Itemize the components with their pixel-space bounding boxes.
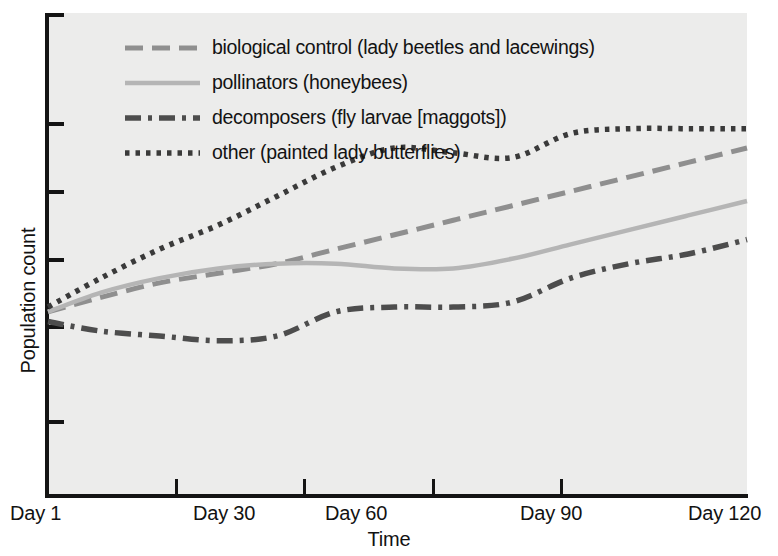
legend-item: pollinators (honeybees) xyxy=(125,65,685,100)
legend: biological control (lady beetles and lac… xyxy=(125,30,685,170)
legend-line-solid-icon xyxy=(125,74,200,92)
legend-item: decomposers (fly larvae [maggots]) xyxy=(125,100,685,135)
legend-line-dotted-icon xyxy=(125,144,200,162)
legend-item: other (painted lady butterflies) xyxy=(125,135,685,170)
legend-item-label: decomposers (fly larvae [maggots]) xyxy=(212,106,506,129)
series-line-pollinators xyxy=(48,201,747,312)
y-axis-title: Population count xyxy=(17,181,40,421)
chart-figure: Day 1Day 30Day 60Day 90Day 120 biologica… xyxy=(0,0,778,556)
legend-item-label: biological control (lady beetles and lac… xyxy=(212,36,595,59)
legend-line-dashed-icon xyxy=(125,39,200,57)
series-line-biological-control xyxy=(48,148,747,312)
legend-item-label: other (painted lady butterflies) xyxy=(212,141,460,164)
legend-item: biological control (lady beetles and lac… xyxy=(125,30,685,65)
x-axis-title: Time xyxy=(0,528,778,551)
legend-item-label: pollinators (honeybees) xyxy=(212,71,408,94)
legend-line-dash-dot-icon xyxy=(125,109,200,127)
